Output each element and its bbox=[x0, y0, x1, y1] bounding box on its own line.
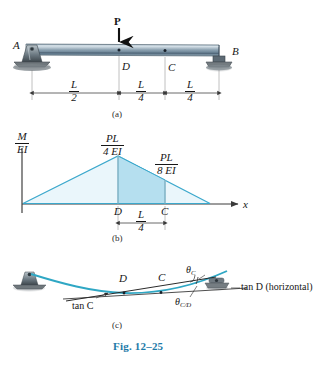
beam-point-d bbox=[118, 49, 121, 52]
dimension-label-l4-first: L 4 bbox=[136, 79, 146, 103]
dimension-l4-first-denominator: 4 bbox=[136, 92, 146, 104]
dimension-l4-first-numerator: L bbox=[136, 79, 146, 92]
figure-12-25: P A B D C L 2 L 4 L 4 (a) M EI PL 4 EI P… bbox=[0, 0, 313, 366]
y-axis-denominator: EI bbox=[15, 144, 29, 156]
b-dimension-label-l4: L 4 bbox=[136, 209, 146, 233]
theta-c-subscript: C bbox=[191, 269, 196, 276]
panel-b-moment-diagram bbox=[22, 148, 238, 230]
b-label-c: C bbox=[161, 206, 168, 217]
panel-tag-c: (c) bbox=[112, 320, 122, 330]
panel-tag-b: (b) bbox=[112, 233, 123, 243]
beam bbox=[26, 44, 219, 56]
b-dimension-numerator: L bbox=[136, 209, 146, 222]
theta-cd-label: θC/D bbox=[175, 297, 191, 308]
mid-value-numerator: PL bbox=[155, 152, 178, 165]
b-dimension-denominator: 4 bbox=[136, 222, 146, 234]
figure-caption: Fig. 12–25 bbox=[113, 340, 163, 352]
roller-support-b bbox=[206, 56, 232, 70]
moment-triangle bbox=[23, 156, 210, 204]
beam-label-d: D bbox=[122, 61, 130, 72]
tan-d-label: tan D (horizontal) bbox=[241, 282, 313, 292]
mid-value-denominator: 8 EI bbox=[155, 165, 178, 177]
dimension-label-l2: L 2 bbox=[69, 79, 79, 103]
tan-c-label: tan C bbox=[72, 301, 93, 311]
c-point-d bbox=[123, 292, 126, 295]
x-axis-label: x bbox=[243, 199, 248, 210]
peak-value-denominator: 4 EI bbox=[101, 146, 124, 158]
beam-point-c bbox=[164, 49, 167, 52]
peak-value-numerator: PL bbox=[101, 133, 124, 146]
dimension-l2-denominator: 2 bbox=[69, 92, 79, 104]
mid-value-label: PL 8 EI bbox=[155, 152, 178, 176]
panel-c-elastic-curve bbox=[13, 271, 247, 301]
dimension-l4-second-denominator: 4 bbox=[185, 92, 195, 104]
y-axis-numerator: M bbox=[15, 131, 29, 144]
theta-cd-subscript: C/D bbox=[180, 301, 191, 308]
panel-tag-a: (a) bbox=[112, 109, 122, 119]
peak-value-label: PL 4 EI bbox=[101, 133, 124, 157]
figure-graphics bbox=[0, 0, 313, 366]
support-label-b: B bbox=[232, 46, 239, 57]
beam-label-c: C bbox=[168, 62, 175, 73]
dimension-l2-numerator: L bbox=[69, 79, 79, 92]
theta-c-label: θC bbox=[186, 265, 195, 276]
b-label-d: D bbox=[114, 206, 122, 217]
c-label-c: C bbox=[158, 272, 165, 283]
y-axis-label-m-ei: M EI bbox=[15, 131, 29, 155]
load-label-p: P bbox=[114, 16, 121, 27]
c-pin-support-left bbox=[13, 272, 46, 292]
dimension-label-l4-second: L 4 bbox=[185, 79, 195, 103]
dimension-l4-second-numerator: L bbox=[185, 79, 195, 92]
support-label-a: A bbox=[13, 40, 20, 51]
elastic-curve bbox=[31, 271, 227, 293]
c-label-d: D bbox=[119, 273, 127, 284]
c-point-c bbox=[160, 291, 163, 294]
